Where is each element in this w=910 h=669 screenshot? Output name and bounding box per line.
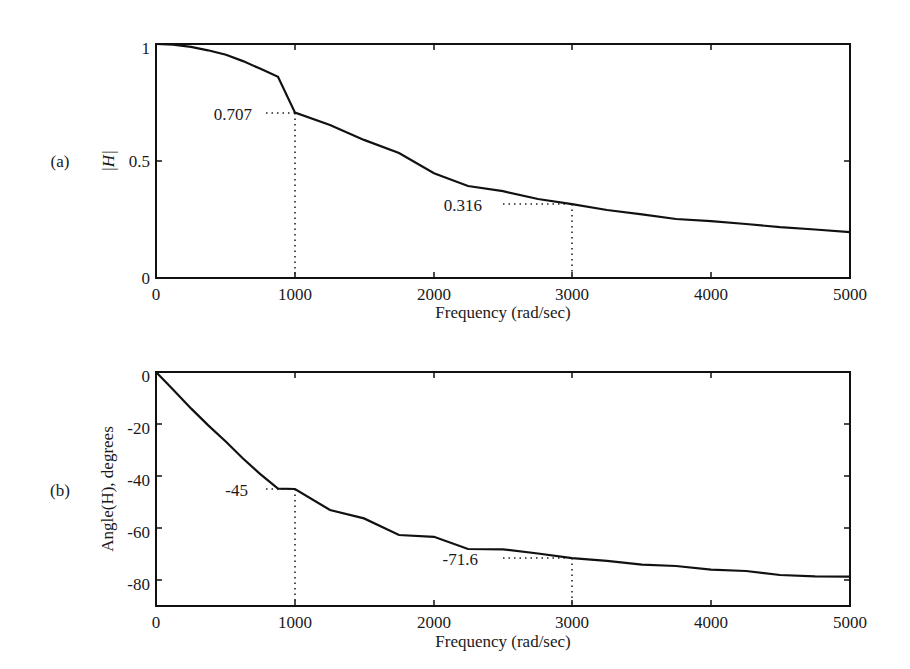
guide-lines: [266, 489, 572, 604]
y-tick-1: 1: [142, 39, 151, 58]
x-tick-0: 0: [152, 613, 161, 632]
y-axis-label: |H|: [99, 150, 118, 172]
y-tick-minus20: -20: [127, 419, 150, 438]
y-tick-0.5: 0.5: [129, 152, 150, 171]
y-tick-0: 0: [142, 367, 151, 386]
x-tick-0: 0: [152, 285, 161, 304]
x-axis-label: Frequency (rad/sec): [435, 303, 570, 322]
x-tick-4000: 4000: [694, 613, 728, 632]
annotation-0707: 0.707: [214, 105, 253, 124]
plot-frame: [156, 44, 850, 278]
y-tick-minus40: -40: [127, 471, 150, 490]
phase-plot: 0 -20 -40 -60 -80 0 1000 2000 3000 4000 …: [50, 367, 867, 651]
x-tick-4000: 4000: [694, 285, 728, 304]
x-tick-3000: 3000: [555, 613, 589, 632]
x-tick-5000: 5000: [833, 285, 867, 304]
x-tick-1000: 1000: [278, 613, 312, 632]
y-tick-0: 0: [142, 269, 151, 288]
x-axis-label: Frequency (rad/sec): [435, 632, 570, 651]
x-tick-marks: [156, 44, 850, 278]
figure: 1 0.5 0 0 1000 2000 3000 4000 5000 Frequ…: [0, 0, 910, 669]
y-axis-label: Angle(H), degrees: [98, 426, 117, 552]
annotation-0316: 0.316: [444, 196, 482, 215]
panel-label-a: (a): [51, 152, 70, 171]
x-tick-2000: 2000: [417, 285, 451, 304]
guide-lines: [266, 113, 572, 276]
phase-curve: [156, 372, 850, 577]
x-tick-2000: 2000: [417, 613, 451, 632]
annotation-minus71.6: -71.6: [443, 550, 478, 569]
y-tick-minus60: -60: [127, 523, 150, 542]
y-tick-minus80: -80: [127, 575, 150, 594]
x-tick-5000: 5000: [833, 613, 867, 632]
magnitude-plot: 1 0.5 0 0 1000 2000 3000 4000 5000 Frequ…: [51, 39, 867, 322]
x-tick-1000: 1000: [278, 285, 312, 304]
panel-label-b: (b): [50, 481, 70, 500]
x-tick-3000: 3000: [555, 285, 589, 304]
annotation-minus45: -45: [225, 481, 248, 500]
